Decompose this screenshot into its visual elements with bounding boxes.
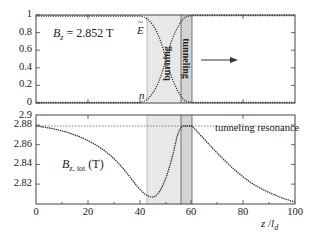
bottom-ytick-2.86: 2.86 xyxy=(2,138,32,149)
bottom-ytick-2.84: 2.84 xyxy=(2,157,32,168)
tilde-icon: ~ xyxy=(138,17,143,27)
top-ytick-1: 1 xyxy=(2,8,32,19)
arrow-head-icon xyxy=(230,57,238,63)
top-ytick-0.4: 0.4 xyxy=(2,61,32,72)
top-ytick-0.8: 0.8 xyxy=(2,26,32,37)
tunneling-band-bottom xyxy=(181,115,192,204)
burning-label: burning xyxy=(161,44,172,84)
chart-figure xyxy=(0,0,315,233)
top-field-annotation: Bz = 2.852 T xyxy=(53,26,113,42)
bottom-field-annotation: Bz, tot (T) xyxy=(62,157,104,173)
xtick-0: 0 xyxy=(24,206,48,217)
burning-band-bottom xyxy=(147,115,181,204)
xtick-60: 60 xyxy=(179,206,203,217)
xtick-100: 100 xyxy=(283,206,307,217)
top-ytick-0.2: 0.2 xyxy=(2,78,32,89)
resonance-label: tunneling resonance xyxy=(215,122,299,133)
xtick-20: 20 xyxy=(76,206,100,217)
x-label-sub: d xyxy=(274,223,278,232)
n-label: n xyxy=(139,89,145,101)
bottom-ytick-2.88: 2.88 xyxy=(2,118,32,129)
E-label: ~E xyxy=(137,24,144,36)
top-ytick-0: 0 xyxy=(2,96,32,107)
xtick-40: 40 xyxy=(128,206,152,217)
bztot-unit: (T) xyxy=(85,157,103,171)
bottom-ytick-2.82: 2.82 xyxy=(2,177,32,188)
bz-value: = 2.852 T xyxy=(63,26,113,40)
tunneling-label: tunneling xyxy=(181,35,192,83)
xtick-80: 80 xyxy=(231,206,255,217)
top-ytick-0.6: 0.6 xyxy=(2,43,32,54)
bztot-subscript: z, tot xyxy=(69,164,85,173)
x-axis-label: z /ld xyxy=(261,217,278,232)
